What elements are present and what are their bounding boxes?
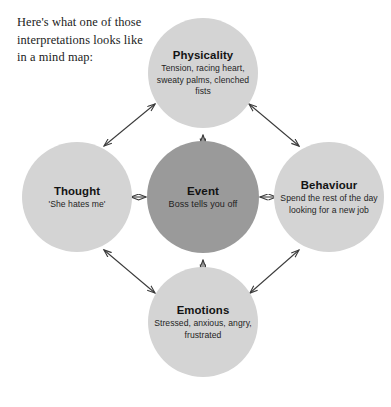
mind-map-figure: Here's what one of those interpretations…: [0, 0, 391, 407]
node-event[interactable]: Event Boss tells you off: [147, 141, 259, 253]
arrow-physicality-behaviour: [249, 104, 299, 146]
arrow-behaviour-emotions: [250, 250, 299, 293]
node-behaviour-body: Spend the rest of the day looking for a …: [274, 193, 384, 216]
node-event-body: Boss tells you off: [163, 199, 244, 210]
intro-line-1: Here's what one of those: [17, 14, 177, 32]
node-emotions-title: Emotions: [177, 303, 230, 317]
arrow-thought-physicality: [104, 104, 155, 146]
node-behaviour[interactable]: Behaviour Spend the rest of the day look…: [274, 142, 384, 252]
intro-line-2: interpretations looks like: [17, 32, 177, 50]
node-thought[interactable]: Thought 'She hates me': [22, 142, 132, 252]
node-thought-body: 'She hates me': [42, 199, 111, 210]
node-event-title: Event: [187, 184, 219, 198]
node-physicality-body: Tension, racing heart, sweaty palms, cle…: [148, 63, 258, 97]
node-behaviour-title: Behaviour: [301, 178, 358, 192]
node-emotions[interactable]: Emotions Stressed, anxious, angry, frust…: [148, 267, 258, 377]
node-physicality[interactable]: Physicality Tension, racing heart, sweat…: [148, 18, 258, 128]
arrow-emotions-thought: [104, 250, 155, 293]
node-emotions-body: Stressed, anxious, angry, frustrated: [148, 318, 258, 341]
node-thought-title: Thought: [54, 184, 100, 198]
node-physicality-title: Physicality: [173, 48, 234, 62]
